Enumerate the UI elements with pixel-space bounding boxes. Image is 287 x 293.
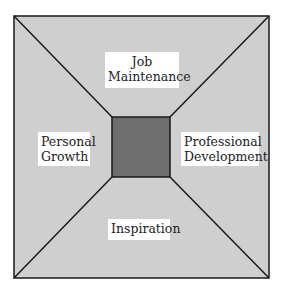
label-personal-growth: Personal Growth xyxy=(38,132,90,166)
label-line: Job xyxy=(108,54,176,69)
label-line: Professional xyxy=(184,134,256,149)
label-line: Personal xyxy=(41,134,87,149)
label-line: Inspiration xyxy=(111,221,167,236)
label-line: Development xyxy=(184,149,256,164)
label-professional-development: Professional Development xyxy=(181,132,259,166)
label-job-maintenance: Job Maintenance xyxy=(105,52,179,88)
label-inspiration: Inspiration xyxy=(108,219,170,240)
center-square xyxy=(112,117,170,177)
label-line: Growth xyxy=(41,149,87,164)
label-line: Maintenance xyxy=(108,69,176,84)
